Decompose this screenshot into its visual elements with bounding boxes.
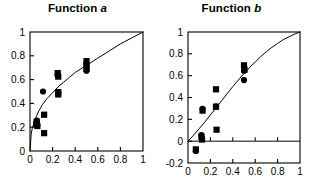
data-point-square bbox=[41, 130, 47, 136]
y-tick-label: 0 bbox=[177, 136, 183, 147]
chart-panel-function-a: Function a 00.20.40.60.8100.20.40.60.81 bbox=[0, 0, 155, 184]
y-tick-label: 0 bbox=[19, 146, 25, 157]
x-tick-label: 0.8 bbox=[271, 166, 285, 177]
x-tick-label: 0.2 bbox=[203, 166, 217, 177]
fitted-curve-b bbox=[188, 32, 300, 141]
data-point-square bbox=[41, 112, 47, 118]
y-tick-label: 1 bbox=[177, 27, 183, 38]
data-point-circle bbox=[83, 68, 89, 74]
chart-panel-function-b: Function b 00.20.40.60.81-0.200.20.40.60… bbox=[154, 0, 309, 184]
x-tick-label: 0 bbox=[27, 154, 33, 165]
y-tick-label: 0.8 bbox=[11, 50, 25, 61]
data-point-square bbox=[213, 127, 219, 133]
y-tick-label: 0.4 bbox=[169, 92, 183, 103]
x-tick-label: 1 bbox=[297, 166, 303, 177]
data-point-circle bbox=[199, 136, 205, 142]
y-tick-label: -0.2 bbox=[166, 158, 184, 169]
data-point-square bbox=[213, 86, 219, 92]
x-tick-label: 0.4 bbox=[68, 154, 82, 165]
data-point-circle bbox=[193, 148, 199, 154]
data-point-circle bbox=[34, 122, 40, 128]
y-tick-label: 0.2 bbox=[11, 122, 25, 133]
x-tick-label: 0.2 bbox=[46, 154, 60, 165]
x-tick-label: 1 bbox=[140, 154, 146, 165]
x-tick-label: 0 bbox=[185, 166, 191, 177]
plot-frame bbox=[188, 32, 300, 163]
y-tick-label: 0.6 bbox=[11, 74, 25, 85]
data-point-circle bbox=[199, 106, 205, 112]
plot-area-a: 00.20.40.60.8100.20.40.60.81 bbox=[0, 0, 155, 184]
data-point-circle bbox=[55, 90, 61, 96]
x-tick-label: 0.6 bbox=[91, 154, 105, 165]
data-point-circle bbox=[213, 103, 219, 109]
figure-root: Function a 00.20.40.60.8100.20.40.60.81 … bbox=[0, 0, 309, 184]
data-point-circle bbox=[83, 61, 89, 67]
plot-area-b: 00.20.40.60.81-0.200.20.40.60.81 bbox=[154, 0, 309, 184]
y-tick-label: 0.2 bbox=[169, 114, 183, 125]
data-point-circle bbox=[40, 88, 46, 94]
y-tick-label: 0.6 bbox=[169, 70, 183, 81]
x-tick-label: 0.4 bbox=[226, 166, 240, 177]
y-tick-label: 1 bbox=[19, 27, 25, 38]
x-tick-label: 0.6 bbox=[248, 166, 262, 177]
y-tick-label: 0.4 bbox=[11, 98, 25, 109]
data-point-circle bbox=[55, 72, 61, 78]
x-tick-label: 0.8 bbox=[113, 154, 127, 165]
data-point-circle bbox=[241, 68, 247, 74]
data-point-circle bbox=[241, 77, 247, 83]
y-tick-label: 0.8 bbox=[169, 48, 183, 59]
